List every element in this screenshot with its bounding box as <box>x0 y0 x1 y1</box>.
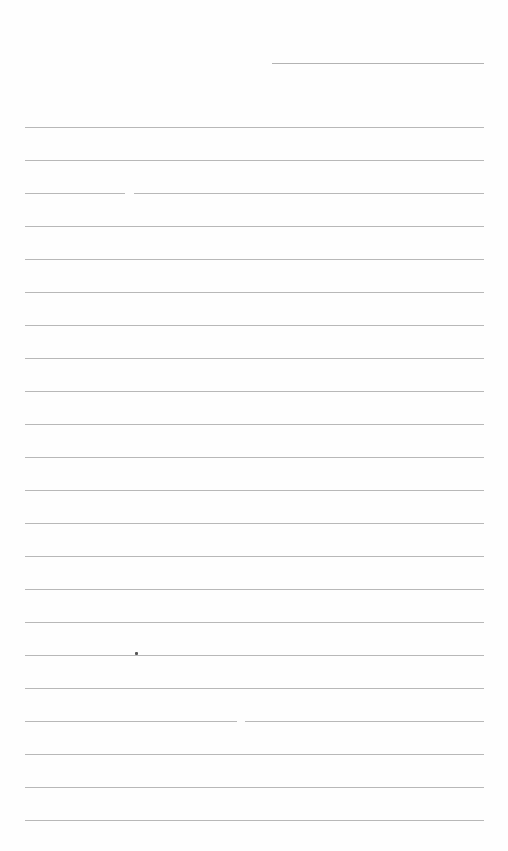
ruled-line <box>25 787 484 788</box>
ruled-line <box>25 721 484 722</box>
ruled-line <box>25 820 484 821</box>
ruled-line <box>25 358 484 359</box>
header-write-line <box>272 63 484 64</box>
ruled-line <box>25 226 484 227</box>
ruled-line <box>25 325 484 326</box>
ruled-line <box>25 655 484 656</box>
ruled-line <box>25 556 484 557</box>
ruled-line <box>25 391 484 392</box>
lined-paper-page <box>0 0 508 851</box>
ruled-line <box>25 424 484 425</box>
ruled-line <box>25 292 484 293</box>
ruled-line <box>25 160 484 161</box>
ruled-line <box>25 523 484 524</box>
ruled-line <box>25 754 484 755</box>
ruled-line <box>25 127 484 128</box>
line-gap <box>237 719 245 722</box>
ruled-line <box>25 457 484 458</box>
line-gap <box>125 192 134 195</box>
ink-speck <box>135 652 138 655</box>
ruled-line <box>25 490 484 491</box>
ruled-line <box>25 259 484 260</box>
ruled-line <box>25 589 484 590</box>
ruled-line <box>25 193 484 194</box>
ruled-line <box>25 688 484 689</box>
ruled-line <box>25 622 484 623</box>
